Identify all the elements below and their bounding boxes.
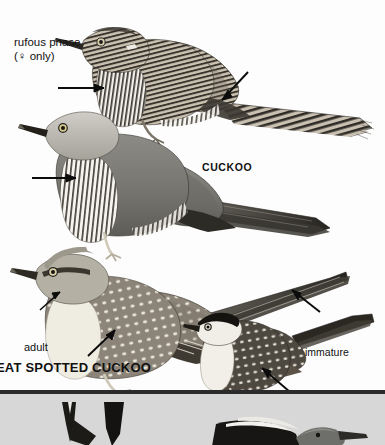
label-adult: adult <box>24 341 48 354</box>
arrow-grey-underparts <box>32 174 76 182</box>
bird-cuckoo-grey-adult <box>18 112 330 261</box>
label-rufous-phase: rufous phase (♀ only) <box>14 36 81 63</box>
arrow-rufous-underparts <box>58 84 104 92</box>
next-plate-strip <box>0 394 385 445</box>
bird-plate: rufous phase (♀ only) CUCKOO adult EAT S… <box>0 0 385 445</box>
label-cuckoo: CUCKOO <box>202 161 252 173</box>
next-plate-artwork <box>0 394 385 445</box>
label-great-spotted-cuckoo: EAT SPOTTED CUCKOO <box>0 360 151 375</box>
plate-artwork <box>0 0 385 445</box>
bird-great-spotted-cuckoo-adult <box>10 247 350 401</box>
label-immature: immature <box>305 346 349 358</box>
